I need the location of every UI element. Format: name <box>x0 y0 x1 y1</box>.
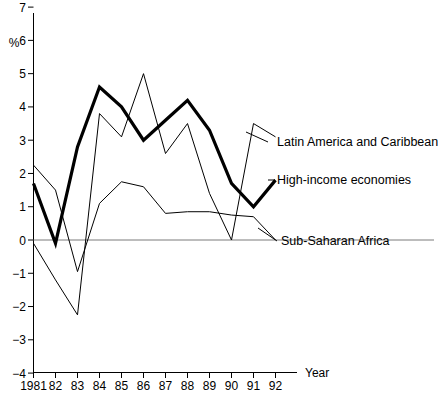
y-tick-label--3: −3 <box>12 333 26 347</box>
series-line-high-income-economies <box>34 87 276 243</box>
x-tick-label-83: 83 <box>71 379 85 393</box>
x-tick-label-84: 84 <box>93 379 107 393</box>
line-chart-canvas: −4−3−2−101234567 % 198182838485868788899… <box>0 0 438 393</box>
x-tick-label-92: 92 <box>269 379 283 393</box>
y-tick-labels: −4−3−2−101234567 <box>12 1 26 381</box>
series-line-latin-america-and-caribbean <box>34 74 276 315</box>
legend-label-latin-america: Latin America and Caribbean <box>277 135 438 149</box>
legend-label-high-income: High-income economies <box>277 173 411 187</box>
x-tick-label-89: 89 <box>203 379 217 393</box>
leader-line-sub-saharan <box>258 228 277 241</box>
y-tick-label-5: 5 <box>19 67 26 81</box>
x-tick-label-82: 82 <box>49 379 63 393</box>
y-axis-unit-label: % <box>9 36 20 50</box>
y-tick-label-2: 2 <box>19 167 26 181</box>
x-tick-label-90: 90 <box>225 379 239 393</box>
x-tick-label-86: 86 <box>137 379 151 393</box>
legend-label-sub-saharan: Sub-Saharan Africa <box>281 234 389 248</box>
x-tick-label-85: 85 <box>115 379 129 393</box>
legend: Latin America and Caribbean High-income … <box>277 135 438 248</box>
y-axis: −4−3−2−101234567 % <box>9 1 34 381</box>
y-tick-label-3: 3 <box>19 134 26 148</box>
x-tick-marks <box>34 373 276 379</box>
x-axis: 19818283848586878889909192 Year <box>20 366 329 393</box>
y-tick-label-7: 7 <box>19 1 26 15</box>
chart-figure: −4−3−2−101234567 % 198182838485868788899… <box>0 0 438 393</box>
y-tick-label-1: 1 <box>19 200 26 214</box>
leader-line-latin-america <box>246 132 268 142</box>
y-tick-label-6: 6 <box>19 34 26 48</box>
y-tick-label-4: 4 <box>19 100 26 114</box>
y-tick-label-0: 0 <box>19 234 26 248</box>
y-tick-label--2: −2 <box>12 300 26 314</box>
x-tick-label-91: 91 <box>247 379 261 393</box>
x-tick-label-88: 88 <box>181 379 195 393</box>
y-tick-label--1: −1 <box>12 267 26 281</box>
x-tick-labels: 19818283848586878889909192 <box>20 379 282 393</box>
y-tick-marks <box>28 7 34 373</box>
x-tick-label-1981: 1981 <box>20 379 47 393</box>
x-axis-title: Year <box>305 366 329 380</box>
data-series-group <box>34 74 276 315</box>
x-tick-label-87: 87 <box>159 379 173 393</box>
